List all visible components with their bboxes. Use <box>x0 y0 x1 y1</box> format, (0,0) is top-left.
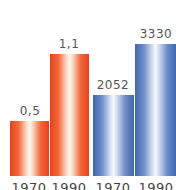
bar-blue-1970 <box>93 95 134 176</box>
bar-red-1990 <box>50 54 89 176</box>
x-label: 1970 <box>7 180 51 190</box>
x-label: 1970 <box>91 180 135 190</box>
x-label: 1990 <box>134 180 176 190</box>
bar-red-1970 <box>10 121 49 176</box>
value-label: 2052 <box>91 78 135 92</box>
x-label: 1990 <box>47 180 91 190</box>
value-label: 1,1 <box>47 37 91 51</box>
value-label: 3330 <box>134 27 176 41</box>
bar-blue-1990 <box>135 44 176 176</box>
value-label: 0,5 <box>8 104 52 118</box>
